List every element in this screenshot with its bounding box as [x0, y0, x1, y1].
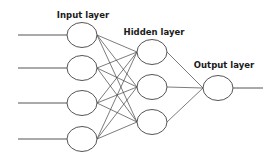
neurons [67, 23, 233, 152]
connection-edge [167, 88, 203, 122]
connection-edge [97, 35, 137, 52]
output-layer-label: Output layer [194, 60, 255, 70]
hidden-neuron-1 [137, 40, 167, 65]
connection-edge [97, 122, 137, 139]
hidden-neuron-3 [137, 110, 167, 135]
hidden-layer-label: Hidden layer [124, 27, 186, 37]
hidden-neuron-2 [137, 75, 167, 100]
input-neuron-2 [67, 56, 97, 81]
connection-edge [97, 35, 137, 122]
input-neuron-4 [67, 127, 97, 152]
input-layer-label: Input layer [57, 10, 110, 20]
output-neuron-1 [203, 76, 233, 101]
input-neuron-3 [67, 91, 97, 116]
input-neuron-1 [67, 23, 97, 48]
connection-edge [167, 52, 203, 88]
connection-edge [167, 87, 203, 88]
neural-network-diagram: Input layer Hidden layer Output layer [0, 0, 277, 154]
